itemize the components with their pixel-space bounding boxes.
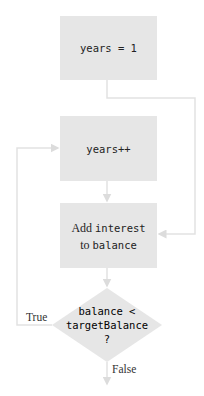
increment-text: years++ bbox=[86, 143, 130, 155]
decision-line3: ? bbox=[104, 332, 110, 346]
to-word: to bbox=[80, 238, 92, 252]
flowchart-canvas: years = 1 years++ Add interest to balanc… bbox=[0, 0, 204, 396]
decision-line1: balance < bbox=[79, 304, 136, 318]
increment-box: years++ bbox=[60, 116, 157, 181]
add-interest-line2: to balance bbox=[80, 236, 137, 253]
decision-line2: targetBalance bbox=[66, 318, 148, 332]
balance-word: balance bbox=[93, 239, 137, 251]
true-label: True bbox=[26, 311, 47, 323]
add-interest-box: Add interest to balance bbox=[60, 203, 157, 268]
init-box: years = 1 bbox=[60, 16, 157, 80]
init-text: years = 1 bbox=[80, 42, 137, 54]
add-interest-line1: Add interest bbox=[71, 219, 145, 236]
add-word: Add bbox=[71, 221, 95, 235]
interest-word: interest bbox=[95, 222, 146, 234]
decision-text: balance < targetBalance ? bbox=[52, 288, 162, 362]
false-label: False bbox=[112, 363, 136, 375]
